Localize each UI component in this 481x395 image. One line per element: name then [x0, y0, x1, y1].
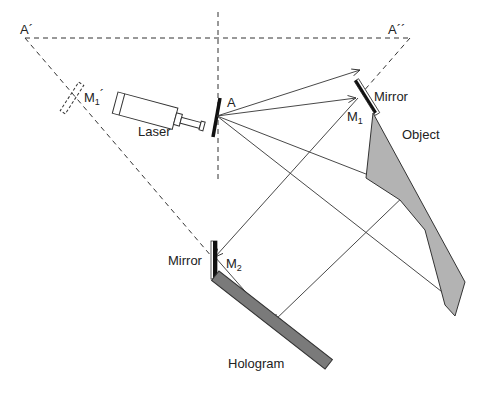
ray-m1-to-m2: [215, 98, 358, 257]
label-a: A: [227, 95, 236, 110]
dashed-right-diagonal: [362, 38, 410, 93]
label-m2: M2: [226, 256, 242, 273]
ray-object-to-hologram: [273, 191, 409, 322]
label-m1: M1: [347, 109, 363, 126]
ray-a-upper: [217, 70, 360, 116]
mirror-m2: [211, 241, 217, 279]
construction-lines: [25, 12, 410, 257]
label-hologram: Hologram: [228, 356, 284, 371]
hologram-plate: [212, 271, 333, 369]
light-rays: [215, 70, 455, 322]
label-laser: Laser: [138, 124, 171, 139]
object-shape: [366, 113, 465, 316]
label-object: Object: [402, 127, 440, 142]
dashed-left-diagonal: [25, 38, 212, 257]
virtual-mirror-m1-prime: [60, 82, 84, 114]
label-mirror-2: Mirror: [168, 253, 203, 268]
holography-diagram: A´ A´´ A M1´ Laser Mirror M1 Object Mirr…: [0, 0, 481, 395]
label-a-prime: A´: [20, 22, 33, 37]
label-a-double-prime: A´´: [388, 22, 405, 37]
label-m1-prime: M1´: [84, 87, 104, 107]
ray-a-to-m1: [217, 98, 356, 116]
label-mirror-1: Mirror: [374, 89, 409, 104]
